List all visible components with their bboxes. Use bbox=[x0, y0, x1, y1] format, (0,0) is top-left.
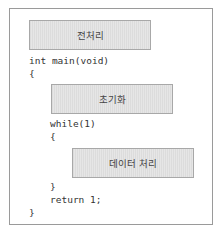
code-main-signature: int main(void) bbox=[29, 55, 109, 67]
code-close-brace-main: } bbox=[29, 207, 35, 219]
code-return-stmt: return 1; bbox=[50, 194, 101, 206]
preprocess-box: 전처리 bbox=[29, 20, 151, 50]
code-close-brace-while: } bbox=[50, 181, 56, 193]
preprocess-label: 전처리 bbox=[77, 28, 104, 42]
code-open-brace-main: { bbox=[29, 68, 35, 80]
init-box: 초기화 bbox=[51, 84, 173, 114]
data-processing-label: 데이터 처리 bbox=[109, 156, 157, 170]
data-processing-box: 데이터 처리 bbox=[72, 148, 194, 178]
init-label: 초기화 bbox=[99, 92, 126, 106]
code-open-brace-while: { bbox=[50, 131, 56, 143]
code-while-loop: while(1) bbox=[50, 118, 96, 130]
